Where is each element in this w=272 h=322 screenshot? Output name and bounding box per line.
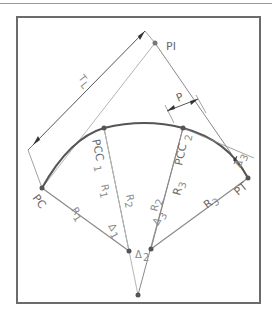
radius-r1-pc [42, 188, 129, 251]
svg-text:Δ: Δ [135, 249, 142, 260]
delta1-label: Δ 1 [104, 222, 123, 241]
compound-curve-diagram: PI PC PT PCC 1 PCC 2 T L P R 1 R 1 R 2 R… [0, 0, 272, 322]
svg-text:2: 2 [183, 133, 195, 142]
pcc2-tangent-line [183, 128, 254, 158]
center-o3-point [149, 247, 154, 252]
pcc1-label: PCC 1 [86, 138, 108, 173]
svg-text:1: 1 [92, 164, 104, 173]
pt-point [246, 176, 251, 181]
delta2-label: Δ 2 [135, 249, 149, 263]
pc-point [40, 186, 45, 191]
tl-extension-a [28, 145, 33, 150]
arrowhead-icon [138, 31, 145, 40]
svg-text:2: 2 [143, 252, 149, 263]
radius-r2-pcc1 [104, 128, 138, 295]
center-o2-point [136, 293, 141, 298]
pcc2-point [181, 126, 186, 131]
tl-label: T L [73, 72, 93, 92]
p-label: P [174, 90, 185, 105]
pcc2-label: PCC 2 [172, 132, 194, 167]
r2-label-left: R 2 [121, 193, 137, 209]
delta3-label-upper: Δ 3 [232, 151, 251, 170]
r1-label-upper: R 1 [96, 183, 112, 199]
svg-text:PCC: PCC [172, 142, 189, 167]
pi-label: PI [166, 40, 176, 53]
pc-label: PC [30, 192, 49, 212]
svg-text:3: 3 [176, 181, 188, 190]
tl-extension-line [28, 150, 42, 188]
arrowhead-icon [33, 136, 40, 145]
diagram-frame [17, 17, 260, 303]
r2-label-right: R 2 [148, 197, 165, 214]
arrowhead-icon [167, 105, 175, 111]
svg-text:2: 2 [123, 201, 135, 210]
pi-point [153, 41, 158, 46]
pcc1-point [102, 126, 107, 131]
svg-text:PCC: PCC [89, 138, 106, 163]
center-o1-point [127, 249, 132, 254]
pt-label: PT [232, 180, 251, 199]
svg-text:1: 1 [98, 191, 110, 200]
r3-label-upper: R 3 [170, 180, 188, 198]
